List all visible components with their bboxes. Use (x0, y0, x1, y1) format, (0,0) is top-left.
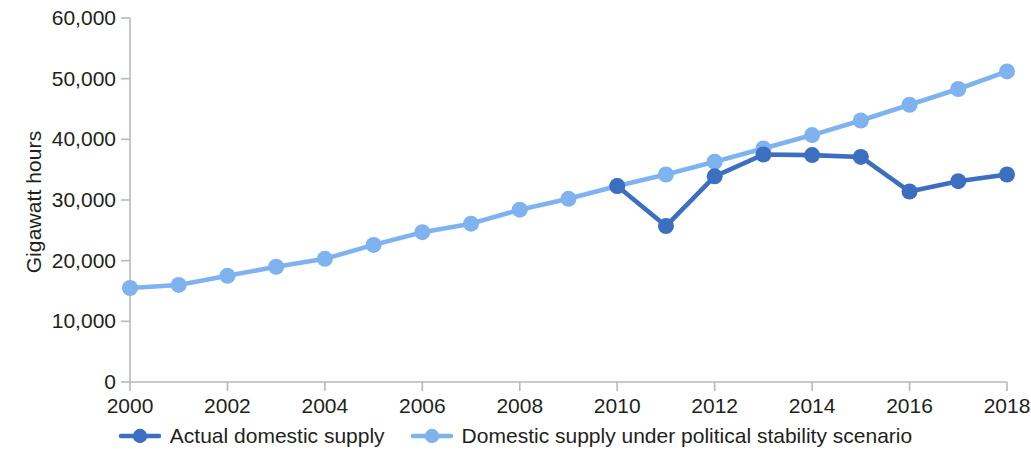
legend-marker-icon (119, 427, 161, 445)
x-tick-label: 2012 (691, 394, 738, 418)
chart-legend: Actual domestic supplyDomestic supply un… (0, 424, 1031, 448)
x-tick-label: 2014 (789, 394, 836, 418)
x-tick-label: 2000 (107, 394, 154, 418)
line-chart: Gigawatt hours 010,00020,00030,00040,000… (0, 0, 1031, 460)
legend-item[interactable]: Domestic supply under political stabilit… (411, 424, 913, 448)
x-axis-tick-labels: 2000200220042006200820102012201420162018 (0, 0, 1031, 460)
x-tick-label: 2016 (886, 394, 933, 418)
legend-label: Actual domestic supply (170, 424, 385, 448)
x-tick-label: 2002 (204, 394, 251, 418)
x-tick-label: 2010 (594, 394, 641, 418)
legend-marker-icon (411, 427, 453, 445)
legend-item[interactable]: Actual domestic supply (119, 424, 385, 448)
x-tick-label: 2008 (496, 394, 543, 418)
x-tick-label: 2018 (984, 394, 1031, 418)
x-tick-label: 2004 (302, 394, 349, 418)
legend-label: Domestic supply under political stabilit… (462, 424, 913, 448)
x-tick-label: 2006 (399, 394, 446, 418)
